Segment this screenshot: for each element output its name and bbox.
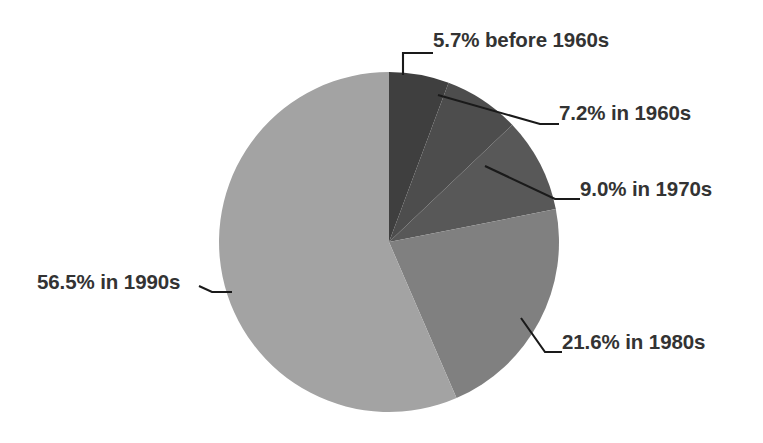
pie-chart-canvas [0, 0, 763, 443]
pie-label-1990s: 56.5% in 1990s [37, 270, 180, 294]
pie-label-1980s: 21.6% in 1980s [562, 330, 705, 354]
pie-label-before-1960s: 5.7% before 1960s [433, 28, 609, 52]
pie-slices [219, 72, 559, 412]
pie-label-1970s: 9.0% in 1970s [580, 177, 712, 201]
pie-chart-figure: 5.7% before 1960s 7.2% in 1960s 9.0% in … [0, 0, 763, 443]
pie-label-1960s: 7.2% in 1960s [559, 101, 691, 125]
leader-line-before-1960s [403, 53, 433, 75]
